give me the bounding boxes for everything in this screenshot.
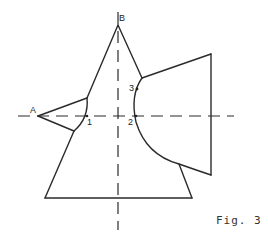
figure-diagram: A B 1 2 3 Fig. 3 — [0, 0, 268, 240]
box-top-edge — [142, 54, 211, 78]
label-3: 3 — [129, 83, 134, 93]
point-2-marker — [135, 115, 138, 118]
label-a: A — [30, 105, 36, 115]
point-3-marker — [136, 88, 139, 91]
label-1: 1 — [87, 117, 92, 127]
wedge-upper-line — [38, 98, 87, 116]
right-upper-edge — [118, 25, 142, 78]
right-lower-edge — [179, 164, 192, 198]
large-arc — [134, 78, 211, 175]
figure-caption: Fig. 3 — [216, 214, 262, 227]
wedge-lower-line — [38, 116, 74, 131]
label-b: B — [119, 13, 125, 23]
left-upper-edge — [87, 25, 118, 98]
left-lower-edge — [45, 131, 74, 198]
label-2: 2 — [128, 117, 133, 127]
small-arc — [74, 98, 87, 131]
